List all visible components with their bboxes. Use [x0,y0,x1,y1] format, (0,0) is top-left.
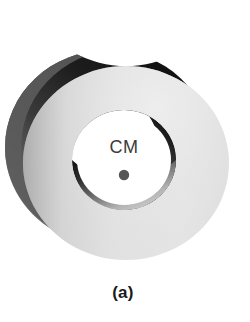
figure-caption: (a) [0,283,248,303]
bore-hole [77,115,171,205]
center-of-mass-label: CM [0,137,249,157]
figure-container: CM (a) [0,0,250,322]
center-of-mass-dot [119,170,129,180]
